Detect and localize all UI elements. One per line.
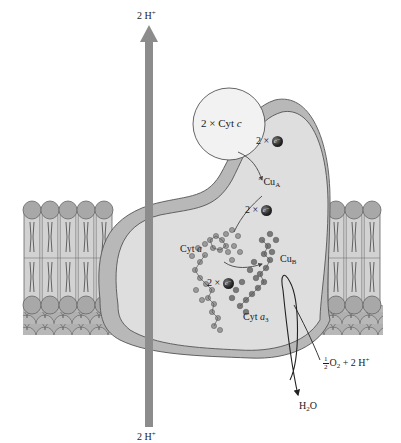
proton-bottom-charge: + bbox=[152, 430, 156, 438]
oxygen-label: 12O2 + 2 H+ bbox=[323, 356, 370, 371]
cyt-c-prefix: 2 × Cyt bbox=[201, 117, 237, 129]
electron-3-prefix: 2 × bbox=[207, 277, 223, 288]
cu-b-text: Cu bbox=[280, 253, 292, 264]
cu-a-text: Cu bbox=[263, 176, 275, 187]
oxygen-charge: + bbox=[366, 356, 370, 364]
cu-a-sub: A bbox=[275, 181, 280, 189]
fraction-denominator: 2 bbox=[323, 364, 329, 371]
electron-2-prefix: 2 × bbox=[245, 204, 261, 215]
electron-label-3: 2 × e⁻ bbox=[207, 278, 234, 289]
cu-a-label: ∘ CuA bbox=[258, 177, 280, 189]
water-label: H2O bbox=[299, 401, 317, 413]
cyt-c-label: 2 × Cyt c bbox=[201, 118, 242, 129]
cu-b-label: CuB bbox=[280, 254, 296, 266]
electron-icon: e⁻ bbox=[261, 205, 272, 216]
cu-a-dot-icon: ∘ bbox=[258, 176, 261, 182]
electron-icon: e⁻ bbox=[223, 278, 234, 289]
water-o: O bbox=[310, 400, 317, 411]
proton-bottom-text: 2 H bbox=[137, 431, 152, 442]
electron-icon: e⁻ bbox=[272, 136, 283, 147]
electron-label-2: 2 × e⁻ bbox=[245, 205, 272, 216]
cyt-a-italic: a bbox=[197, 243, 202, 254]
proton-top-text: 2 H bbox=[137, 10, 152, 21]
proton-label-top: 2 H+ bbox=[137, 10, 156, 21]
oxygen-symbol: O bbox=[330, 357, 337, 368]
cyt-a-prefix: Cyt bbox=[180, 243, 197, 254]
oxygen-tail: + 2 H bbox=[340, 357, 365, 368]
cyt-a3-sub: 3 bbox=[265, 316, 269, 324]
half-fraction: 12 bbox=[323, 356, 329, 371]
electron-1-prefix: 2 × bbox=[256, 135, 272, 146]
cu-b-sub: B bbox=[292, 258, 297, 266]
cyt-a3-label: Cyt a3 bbox=[243, 312, 268, 324]
cyt-a-label: Cyt a bbox=[180, 244, 202, 254]
cyt-c-italic: c bbox=[237, 117, 242, 129]
cyt-a3-prefix: Cyt bbox=[243, 311, 260, 322]
electron-label-1: 2 × e⁻ bbox=[256, 136, 283, 147]
proton-label-bottom: 2 H+ bbox=[137, 431, 156, 442]
cytochrome-oxidase-diagram bbox=[0, 0, 401, 443]
proton-top-charge: + bbox=[152, 9, 156, 17]
